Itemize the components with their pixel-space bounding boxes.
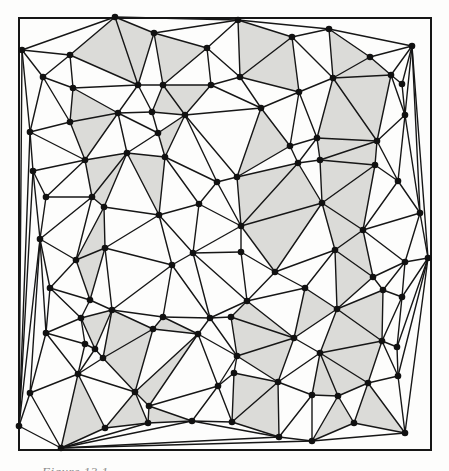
mesh-edge — [279, 437, 312, 441]
mesh-vertex — [215, 383, 222, 390]
shaded-triangle — [312, 396, 354, 441]
mesh-edge — [290, 138, 317, 146]
mesh-edge — [105, 215, 159, 248]
mesh-edge — [40, 197, 92, 239]
mesh-edge — [193, 252, 241, 253]
mesh-edge — [198, 334, 218, 386]
mesh-vertex — [75, 371, 82, 378]
mesh-vertex — [425, 255, 432, 262]
mesh-edge — [118, 113, 158, 133]
mesh-vertex — [190, 250, 197, 257]
mesh-vertex — [309, 392, 316, 399]
mesh-vertex — [102, 425, 109, 432]
mesh-vertex — [244, 298, 251, 305]
mesh-edge — [165, 157, 217, 182]
mesh-edge — [46, 288, 50, 333]
mesh-vertex — [395, 373, 402, 380]
mesh-edge — [261, 92, 299, 108]
mesh-vertex — [372, 162, 379, 169]
mesh-vertex — [208, 82, 215, 89]
mesh-vertex — [112, 14, 119, 21]
mesh-vertex — [234, 174, 241, 181]
mesh-edge — [138, 85, 152, 112]
mesh-edge — [405, 213, 420, 262]
mesh-edge — [43, 77, 73, 88]
shaded-triangle — [158, 115, 185, 157]
mesh-vertex — [155, 130, 162, 137]
mesh-edge — [30, 374, 78, 393]
mesh-vertex — [30, 168, 37, 175]
mesh-vertex — [238, 223, 245, 230]
mesh-vertex — [102, 245, 109, 252]
mesh-edge — [397, 347, 398, 376]
mesh-edge — [40, 239, 76, 260]
mesh-vertex — [229, 419, 236, 426]
mesh-vertex — [67, 52, 74, 59]
mesh-vertex — [379, 338, 386, 345]
mesh-edge — [46, 333, 85, 344]
mesh-vertex — [258, 105, 265, 112]
mesh-vertex — [82, 157, 89, 164]
mesh-vertex — [409, 43, 416, 50]
mesh-vertex — [332, 247, 339, 254]
mesh-edge — [193, 253, 247, 301]
mesh-edge — [30, 77, 43, 132]
mesh-edge — [46, 160, 85, 197]
mesh-edge — [247, 288, 305, 301]
mesh-vertex — [160, 314, 167, 321]
mesh-edge — [118, 112, 152, 113]
mesh-vertex — [67, 119, 74, 126]
mesh-edge — [405, 46, 412, 115]
mesh-vertex — [40, 74, 47, 81]
mesh-edge — [278, 382, 312, 395]
mesh-edge — [368, 376, 398, 383]
mesh-edge — [207, 48, 211, 85]
mesh-edge — [118, 85, 138, 113]
mesh-vertex — [58, 445, 65, 452]
mesh-edge — [241, 252, 247, 301]
mesh-vertex — [374, 138, 381, 145]
mesh-vertex — [287, 143, 294, 150]
mesh-vertex — [235, 17, 242, 24]
mesh-vertex — [317, 157, 324, 164]
mesh-edge — [298, 160, 320, 163]
mesh-vertex — [124, 150, 131, 157]
mesh-edge — [383, 262, 405, 290]
mesh-vertex — [73, 257, 80, 264]
mesh-edge — [398, 115, 405, 181]
mesh-vertex — [182, 112, 189, 119]
mesh-vertex — [380, 287, 387, 294]
mesh-vertex — [238, 249, 245, 256]
mesh-vertex — [214, 179, 221, 186]
mesh-edge — [73, 85, 138, 88]
mesh-vertex — [19, 47, 26, 54]
mesh-vertex — [100, 355, 107, 362]
mesh-vertex — [317, 350, 324, 357]
mesh-vertex — [16, 423, 23, 430]
mesh-edge — [193, 226, 241, 253]
mesh-vertex — [151, 30, 158, 37]
mesh-vertex — [160, 82, 167, 89]
mesh-vertex — [162, 154, 169, 161]
mesh-edge — [33, 171, 40, 239]
mesh-vertex — [276, 434, 283, 441]
mesh-edge — [292, 29, 329, 37]
mesh-edge — [163, 317, 210, 318]
mesh-vertex — [82, 341, 89, 348]
mesh-edge — [398, 258, 428, 376]
mesh-edge — [211, 77, 240, 85]
mesh-edge — [198, 334, 237, 356]
mesh-edge — [278, 382, 279, 437]
mesh-edge — [398, 181, 420, 213]
mesh-vertex — [275, 379, 282, 386]
mesh-vertex — [196, 201, 203, 208]
mesh-vertex — [234, 353, 241, 360]
mesh-edge — [43, 77, 70, 122]
mesh-edge — [363, 213, 420, 230]
mesh-edge — [105, 248, 172, 265]
mesh-vertex — [237, 74, 244, 81]
mesh-edge — [185, 115, 237, 177]
mesh-vertex — [402, 259, 409, 266]
mesh-edge — [199, 182, 217, 204]
mesh-vertex — [319, 200, 326, 207]
